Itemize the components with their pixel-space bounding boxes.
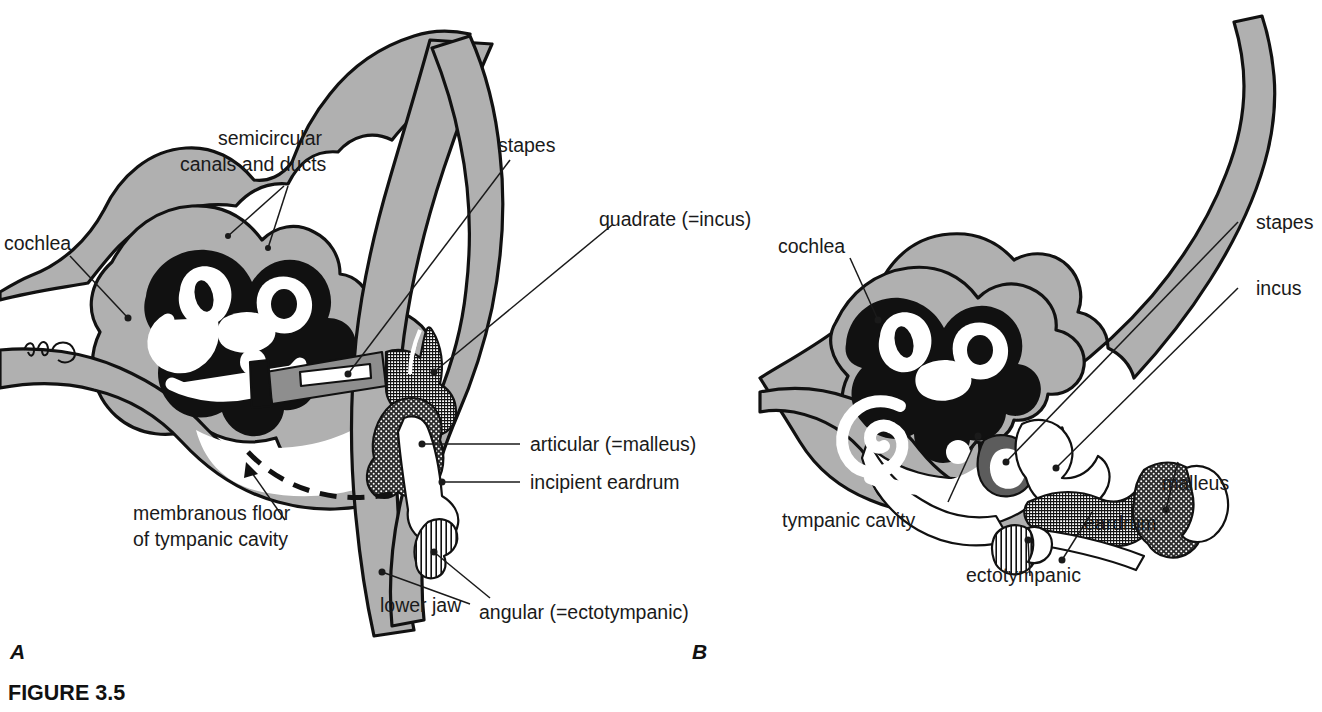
label-tympanic-cavity-b: tympanic cavity (782, 509, 916, 531)
label-incipient-eardrum: incipient eardrum (530, 471, 680, 493)
label-malleus-b: malleus (1162, 472, 1229, 494)
label-semicircular-line1: semicircular (218, 127, 323, 149)
label-angular: angular (=ectotympanic) (479, 601, 689, 623)
label-articular: articular (=malleus) (530, 433, 696, 455)
figure-caption: FIGURE 3.5 (8, 681, 125, 705)
panel-a-illustration: semicircular canals and ducts cochlea st… (0, 31, 751, 663)
label-stapes-a: stapes (498, 134, 556, 156)
label-semicircular-line2: canals and ducts (180, 153, 327, 175)
panel-letter-a: A (9, 640, 25, 663)
label-cochlea-b: cochlea (778, 235, 845, 257)
label-lower-jaw: lower jaw (380, 594, 462, 616)
label-membranous-line2: of tympanic cavity (133, 528, 288, 550)
label-cochlea-a: cochlea (4, 232, 71, 254)
figure-page: semicircular canals and ducts cochlea st… (0, 0, 1322, 712)
panel-b-illustration: cochlea stapes incus malleus eardrum ect… (692, 16, 1314, 663)
label-eardrum-b: eardrum (1084, 512, 1157, 534)
label-membranous-line1: membranous floor (133, 502, 291, 524)
ear-evolution-diagram: semicircular canals and ducts cochlea st… (0, 0, 1322, 712)
label-incus-b: incus (1256, 277, 1302, 299)
panel-letter-b: B (692, 640, 707, 663)
label-ectotympanic-b: ectotympanic (966, 564, 1081, 586)
label-quadrate: quadrate (=incus) (599, 208, 751, 230)
label-stapes-b: stapes (1256, 211, 1314, 233)
